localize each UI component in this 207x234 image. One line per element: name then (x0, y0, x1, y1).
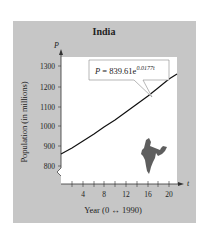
equation-text: = 839.61e (100, 66, 136, 76)
svg-text:4: 4 (81, 190, 85, 199)
chart-title: India (93, 26, 116, 37)
y-axis-var: P (53, 41, 59, 50)
svg-text:800: 800 (44, 162, 56, 171)
y-axis-label: Population (in millions) (19, 81, 29, 162)
svg-text:1200: 1200 (40, 83, 55, 92)
chart: India P t 800 900 1000 1100 1200 1300 4 … (0, 0, 207, 234)
x-axis-label: Year (0 ↔ 1990) (84, 205, 142, 215)
svg-text:1100: 1100 (40, 103, 55, 112)
svg-text:8: 8 (102, 190, 106, 199)
svg-text:1300: 1300 (40, 62, 55, 71)
equation-exponent: 0.0177t (136, 65, 155, 71)
svg-text:12: 12 (122, 190, 130, 199)
svg-text:16: 16 (144, 190, 152, 199)
svg-text:1000: 1000 (40, 122, 55, 131)
svg-text:900: 900 (44, 142, 56, 151)
svg-text:20: 20 (165, 190, 173, 199)
